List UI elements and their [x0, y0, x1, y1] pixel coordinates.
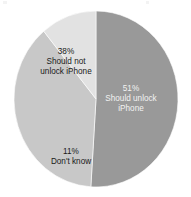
- pie-slice-category-line: iPhone: [118, 105, 144, 114]
- pie-slice-category-line: Should unlock: [105, 94, 157, 103]
- scan-artifact-top-right: [146, 1, 149, 4]
- pie-slice-category-line: Should not: [46, 57, 86, 66]
- pie-slice-percent: 51%: [123, 84, 139, 93]
- scan-artifact-top-left: [3, 1, 7, 4]
- pie-chart-svg: 51%Should unlockiPhone38%Should notunloc…: [0, 0, 191, 197]
- pie-slice-percent: 11%: [63, 147, 79, 156]
- pie-slice-category-line: unlock iPhone: [40, 68, 92, 77]
- pie-slice-percent: 38%: [58, 47, 74, 56]
- pie-slice-category-line: Don't know: [51, 157, 91, 166]
- pie-chart: 51%Should unlockiPhone38%Should notunloc…: [0, 0, 191, 197]
